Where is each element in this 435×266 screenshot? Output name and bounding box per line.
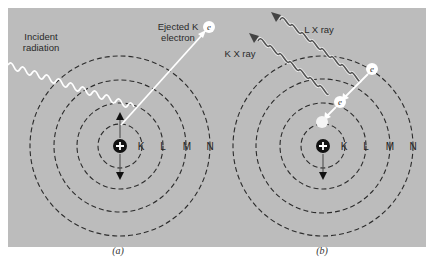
ejected-electron-label-line1: Ejected K (158, 21, 199, 32)
k-xray-arrowhead-icon (249, 33, 259, 43)
shell-label-l: L (160, 141, 166, 152)
incident-radiation-label-line2: radiation (23, 42, 59, 53)
panel-b: e e K L M N L X ray K X ray (b) (224, 12, 416, 257)
shell-label-n: N (409, 141, 416, 152)
arrow-up-icon (116, 112, 124, 120)
shell-label-n: N (206, 141, 213, 152)
arrow-down-icon (116, 172, 124, 180)
atom-diagram: e K L M N Incident radiation Ejected K e… (0, 0, 435, 266)
k-shell-vacancy (316, 116, 328, 128)
transition-k-arrow (327, 107, 336, 116)
shell-label-k: K (138, 141, 145, 152)
k-xray-label: K X ray (224, 48, 255, 59)
panel-a: e K L M N Incident radiation Ejected K e… (8, 21, 215, 257)
l-xray-label: L X ray (304, 24, 334, 35)
electron-symbol: e (338, 97, 342, 107)
shell-label-k: K (341, 141, 348, 152)
caption-b: (b) (316, 245, 328, 257)
ejected-electron-label-line2: electron (161, 32, 195, 43)
shell-label-m: M (183, 141, 191, 152)
l-xray-arrowhead-icon (271, 12, 281, 22)
ejected-electron-path (121, 35, 202, 125)
electron-symbol: e (207, 22, 211, 32)
electron-symbol: e (370, 64, 374, 74)
shell-label-l: L (363, 141, 369, 152)
incident-radiation-label-line1: Incident (24, 31, 58, 42)
shell-label-m: M (386, 141, 394, 152)
caption-a: (a) (112, 245, 124, 257)
incident-radiation-wave (8, 63, 134, 107)
arrow-down-icon (319, 172, 327, 180)
